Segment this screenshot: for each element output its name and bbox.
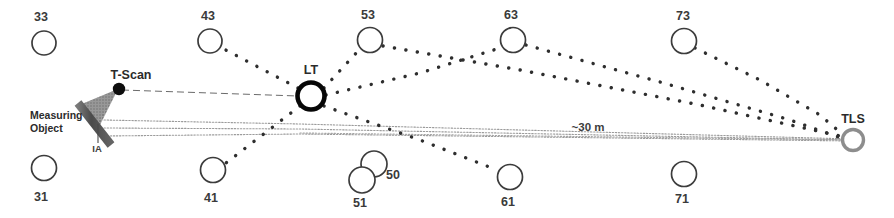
target-circle-53[interactable]: [358, 28, 383, 53]
tscan-head-icon[interactable]: [113, 83, 125, 95]
diagram-canvas: 33 43 53 63 73 31 41 50 51 61 71 T-Scan …: [0, 0, 894, 218]
target-circle-51[interactable]: [349, 167, 375, 193]
target-label-50: 50: [386, 168, 400, 182]
target-label-71: 71: [675, 192, 689, 206]
sight-line-lt-43: [222, 48, 298, 88]
target-circle-41[interactable]: [201, 158, 226, 183]
sight-line-lt-63: [326, 48, 500, 95]
target-label-73: 73: [676, 9, 690, 23]
measuring-object-assembly: [78, 89, 118, 145]
sight-line-tscan-lt: [122, 90, 298, 96]
target-circle-31[interactable]: [32, 156, 57, 181]
ia-label: IA: [92, 143, 102, 154]
target-circle-61[interactable]: [498, 165, 523, 190]
lt-label: LT: [304, 63, 319, 77]
target-label-51: 51: [353, 196, 367, 210]
target-circle-group: [32, 28, 697, 194]
tls-instrument-icon[interactable]: [843, 130, 864, 151]
sight-line-lt-53: [324, 51, 358, 88]
target-circle-71[interactable]: [672, 162, 697, 187]
target-circle-43[interactable]: [198, 29, 222, 53]
sight-line-73-tls: [695, 48, 841, 133]
tls-label: TLS: [841, 112, 865, 126]
target-label-41: 41: [204, 191, 218, 205]
lt-instrument-icon[interactable]: [298, 83, 325, 110]
target-label-33: 33: [34, 10, 48, 24]
target-label-43: 43: [201, 9, 215, 23]
tscan-label: T-Scan: [111, 68, 152, 82]
target-circle-73[interactable]: [672, 29, 697, 54]
target-label-61: 61: [501, 195, 515, 209]
measuring-object-label-line2: Object: [30, 122, 63, 134]
sight-line-lt-61: [324, 106, 497, 170]
target-label-31: 31: [34, 190, 48, 204]
scan-ray-top-line: [104, 120, 852, 139]
target-label-53: 53: [361, 8, 375, 22]
distance-annotation-label: ~30 m: [572, 121, 605, 133]
target-circle-33[interactable]: [32, 31, 56, 55]
measurement-diagram: 33 43 53 63 73 31 41 50 51 61 71 T-Scan …: [0, 0, 894, 218]
sight-line-53-tls: [383, 46, 840, 136]
scan-ray-bundle: [104, 120, 852, 141]
target-circle-63[interactable]: [501, 28, 526, 53]
measuring-object-label-line1: Measuring: [30, 109, 83, 121]
target-label-63: 63: [504, 8, 518, 22]
